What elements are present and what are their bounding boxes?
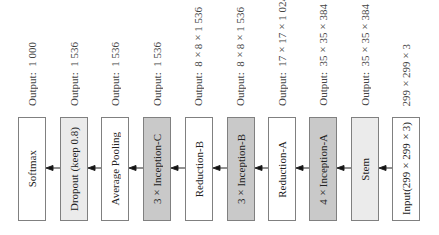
arrow-left-icon — [296, 166, 309, 171]
arrow-left-icon — [46, 166, 60, 171]
arrow-left-icon — [129, 166, 143, 171]
arrow-left-icon — [337, 166, 351, 171]
arrow-left-icon — [88, 166, 101, 171]
flow-arrows — [0, 0, 439, 235]
arrow-left-icon — [213, 166, 227, 171]
arrow-left-icon — [171, 166, 185, 171]
arrow-left-icon — [255, 166, 268, 171]
arrow-left-icon — [379, 166, 392, 171]
